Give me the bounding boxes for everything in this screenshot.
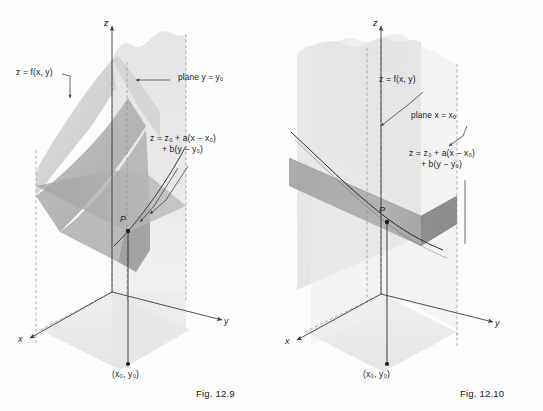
label-tangent-plane-line1: z = z₀ + a(x − x₀) — [150, 133, 216, 144]
label-point-P: P — [120, 214, 126, 226]
point-P-dot — [126, 229, 130, 233]
figure-12-9: z = f(x, y) plane y = y₀ z = z₀ + a(x − … — [0, 0, 272, 411]
figure-12-9-graphic — [0, 0, 272, 411]
point-P-dot — [385, 220, 389, 224]
point-base-dot — [385, 362, 389, 366]
label-surface-equation: z = f(x, y) — [379, 74, 416, 85]
label-surface-equation: z = f(x, y) — [16, 67, 53, 78]
axis-label-y: y — [224, 316, 229, 328]
axis-label-z: z — [104, 18, 109, 30]
axis-label-x: x — [18, 334, 23, 346]
leader-surface — [62, 74, 70, 98]
label-base-point: (x₀, y₀) — [112, 369, 139, 380]
figure-page: z = f(x, y) plane y = y₀ z = z₀ + a(x − … — [0, 0, 543, 411]
axis-label-x: x — [285, 336, 290, 348]
figure-12-10: z = f(x, y) plane x = x₀ z = z₀ + a(x − … — [271, 0, 543, 411]
label-tangent-plane-line2: + b(y − y₀) — [421, 159, 462, 170]
figure-12-10-graphic — [271, 0, 543, 411]
figure-caption: Fig. 12.9 — [196, 388, 235, 400]
label-tangent-plane-line1: z = z₀ + a(x − x₀) — [409, 148, 475, 159]
label-cutting-plane: plane y = y₀ — [178, 72, 223, 83]
figure-caption: Fig. 12.10 — [460, 388, 504, 400]
point-base-dot — [126, 362, 130, 366]
label-tangent-plane-line2: + b(y − y₀) — [162, 144, 203, 155]
label-point-P: P — [379, 205, 385, 217]
axis-label-y: y — [495, 318, 500, 330]
axis-label-z: z — [373, 18, 378, 30]
label-cutting-plane: plane x = x₀ — [411, 110, 456, 121]
label-base-point: (x₀, y₀) — [363, 369, 390, 380]
